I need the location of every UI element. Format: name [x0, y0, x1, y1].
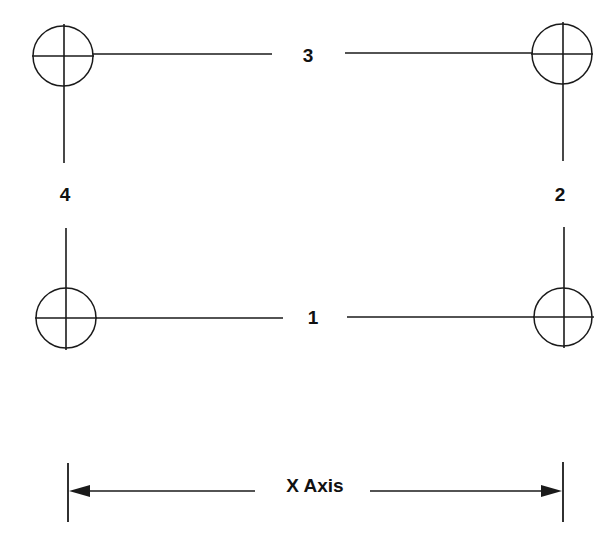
x-axis-label: X Axis	[286, 475, 343, 496]
target-bottom-right	[533, 227, 594, 348]
arrow-head-right-icon	[541, 485, 562, 497]
label-bottom-center: 1	[308, 307, 319, 328]
label-left-middle: 4	[60, 184, 71, 205]
target-top-left	[32, 24, 94, 163]
label-top-center: 3	[303, 45, 314, 66]
datum-target-diagram: 3 4 2 1	[0, 0, 607, 543]
target-top-right	[531, 22, 593, 161]
x-axis-dimension: X Axis	[68, 462, 563, 522]
target-bottom-left	[35, 228, 97, 350]
diagram-canvas: 3 4 2 1	[0, 0, 607, 543]
arrow-head-left-icon	[69, 485, 90, 497]
label-right-middle: 2	[555, 184, 566, 205]
